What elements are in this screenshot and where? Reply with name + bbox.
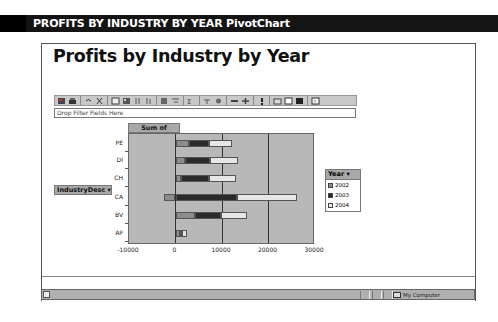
browser-window: Profits by Industry by Year Σ ? Drop Fil…: [41, 43, 476, 301]
bar-pe-2002[interactable]: [176, 140, 190, 147]
legend-item-2003: 2003: [326, 190, 360, 200]
caption-accent: [0, 15, 26, 32]
x-axis-tick-label: -10000: [117, 246, 138, 253]
status-bar: My Computer: [41, 289, 475, 300]
cut-icon[interactable]: [95, 97, 104, 105]
legend-item-2002: 2002: [326, 180, 360, 190]
autocalc-icon[interactable]: Σ: [187, 97, 196, 105]
bar-ca-2002[interactable]: [164, 194, 175, 201]
chart-legend: Year ▾ 2002 2003 2004: [325, 169, 361, 212]
axis-tick: [125, 151, 128, 152]
toolbar-separator: [80, 96, 81, 105]
data-field-button[interactable]: Sum of Profits: [128, 123, 180, 133]
legend-item-2004: 2004: [326, 200, 360, 210]
toolbar-separator: [199, 96, 200, 105]
x-axis-tick-label: 30000: [304, 246, 323, 253]
export-icon[interactable]: [273, 97, 282, 105]
print-icon[interactable]: [68, 97, 77, 105]
toolbar-separator: [307, 96, 308, 105]
category-label: PE: [103, 139, 123, 146]
chart-plot-area: [128, 133, 314, 244]
page-title: Profits by Industry by Year: [53, 46, 309, 66]
sort-ascending-icon[interactable]: [133, 97, 142, 105]
status-pane: [372, 291, 382, 299]
category-label: AP: [103, 229, 123, 236]
toolbar-separator: [253, 96, 254, 105]
axis-tick: [125, 205, 128, 206]
caption-bar: PROFITS BY INDUSTRY BY YEAR PivotChart: [0, 15, 498, 32]
x-axis-tick-label: 20000: [258, 246, 277, 253]
status-pane: [383, 291, 393, 299]
bar-ca-2004[interactable]: [237, 194, 297, 201]
content-divider: [42, 276, 475, 277]
office-logo-icon[interactable]: [57, 97, 66, 105]
svg-text:?: ?: [314, 98, 317, 104]
category-label: BV: [103, 211, 123, 218]
legend-label: 2003: [335, 190, 349, 200]
svg-text:Σ: Σ: [187, 98, 191, 105]
bar-ap-2004[interactable]: [182, 230, 187, 237]
legend-title: Year: [328, 170, 344, 178]
status-pane: [360, 291, 370, 299]
security-zone: My Computer: [393, 291, 440, 299]
legend-swatch: [328, 203, 333, 208]
bar-ch-2003[interactable]: [181, 175, 209, 182]
chevron-down-icon: ▾: [346, 170, 349, 178]
gridline: [222, 134, 223, 243]
field-list-icon[interactable]: [122, 97, 131, 105]
category-label: CA: [103, 193, 123, 200]
toolbar-separator: [226, 96, 227, 105]
gridline: [268, 134, 269, 243]
x-axis-tick-label: 10000: [211, 246, 230, 253]
gridline: [175, 134, 176, 243]
chart-type-icon[interactable]: [111, 97, 120, 105]
help-icon[interactable]: ?: [311, 97, 320, 105]
axis-tick: [125, 223, 128, 224]
row-field-label: IndustryDesc: [57, 186, 105, 194]
filter-drop-zone[interactable]: Drop Filter Fields Here: [54, 108, 356, 118]
autofilter-icon[interactable]: [160, 97, 169, 105]
expand-icon[interactable]: [241, 97, 250, 105]
toolbar-separator: [156, 96, 157, 105]
legend-label: 2002: [335, 180, 349, 190]
bar-bv-2004[interactable]: [221, 212, 247, 219]
bar-ca-2003[interactable]: [176, 194, 237, 201]
axis-tick: [125, 186, 128, 187]
properties-icon[interactable]: [295, 97, 304, 105]
refresh-icon[interactable]: [257, 97, 266, 105]
axis-tick: [125, 168, 128, 169]
bar-di-2003[interactable]: [185, 157, 211, 164]
legend-swatch: [328, 183, 333, 188]
page-status-icon: [43, 291, 50, 298]
toolbar-separator: [183, 96, 184, 105]
bar-ch-2004[interactable]: [209, 175, 236, 182]
axis-tick: [125, 241, 128, 242]
x-axis-tick-label: 0: [173, 246, 177, 253]
collapse-icon[interactable]: [230, 97, 239, 105]
bar-bv-2002[interactable]: [176, 212, 196, 219]
field-list-toggle-icon[interactable]: [284, 97, 293, 105]
bar-di-2004[interactable]: [210, 157, 237, 164]
sort-descending-icon[interactable]: [144, 97, 153, 105]
subtotal-icon[interactable]: [203, 97, 212, 105]
calculated-fields-icon[interactable]: [214, 97, 223, 105]
category-label: CH: [103, 174, 123, 181]
bar-pe-2004[interactable]: [209, 140, 231, 147]
pivotchart-toolbar: Σ ?: [54, 95, 357, 106]
security-zone-label: My Computer: [403, 292, 440, 298]
show-top-bottom-icon[interactable]: [171, 97, 180, 105]
category-label: DI: [103, 156, 123, 163]
computer-icon: [393, 292, 401, 298]
toolbar-separator: [269, 96, 270, 105]
bar-bv-2003[interactable]: [195, 212, 221, 219]
legend-field-button[interactable]: Year ▾: [326, 170, 360, 180]
legend-label: 2004: [335, 200, 349, 210]
bar-pe-2003[interactable]: [189, 140, 209, 147]
toolbar-separator: [107, 96, 108, 105]
caption-text: PROFITS BY INDUSTRY BY YEAR PivotChart: [33, 16, 290, 31]
undo-icon[interactable]: [84, 97, 93, 105]
bar-di-2002[interactable]: [176, 157, 185, 164]
legend-swatch: [328, 193, 333, 198]
